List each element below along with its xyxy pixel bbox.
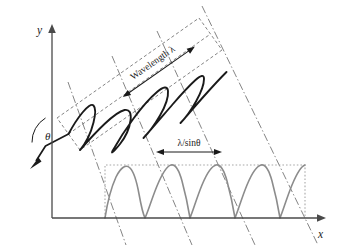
figure-canvas: θ Wavelength λ λ/sinθ bbox=[0, 0, 342, 248]
projection-line-4 bbox=[202, 6, 318, 245]
x-axis-label: x bbox=[317, 228, 324, 240]
lambda-sin-arrow-right bbox=[214, 149, 222, 155]
projected-wave-path bbox=[105, 165, 305, 218]
lambda-over-sin-theta-measure: λ/sinθ bbox=[156, 138, 222, 155]
theta-label: θ bbox=[45, 130, 51, 142]
lambda-sin-arrow-left bbox=[156, 149, 164, 155]
theta-arc bbox=[32, 118, 46, 143]
incident-ray-arrowhead bbox=[30, 158, 42, 170]
x-axis-arrowhead bbox=[317, 214, 326, 222]
wave-projection-diagram: θ Wavelength λ λ/sinθ bbox=[0, 0, 342, 248]
projected-wave bbox=[105, 165, 305, 218]
wavelength-arrow-right bbox=[187, 44, 197, 54]
tilted-wave-bounding-box bbox=[57, 18, 222, 150]
y-axis-label: y bbox=[36, 24, 43, 37]
y-axis-arrowhead bbox=[48, 24, 56, 33]
lambda-sin-label: λ/sinθ bbox=[178, 138, 201, 148]
projection-line-1 bbox=[68, 82, 126, 245]
projection-line-2 bbox=[112, 56, 192, 245]
